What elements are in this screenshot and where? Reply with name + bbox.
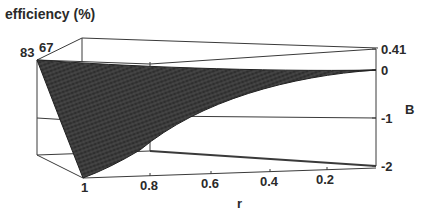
b-tick-0: 0 <box>381 64 388 77</box>
r-tick-0-6: 0.6 <box>201 177 219 190</box>
chart-title: efficiency (%) <box>5 7 95 21</box>
r-tick-0-2: 0.2 <box>316 173 334 186</box>
r-tick-0-4: 0.4 <box>260 175 278 188</box>
efficiency-surface <box>37 60 376 178</box>
b-tick-0-41: 0.41 <box>381 43 406 56</box>
b-tick-neg1: -1 <box>381 112 393 125</box>
b-axis-label: B <box>405 103 414 116</box>
z-tick-83: 83 <box>20 46 34 59</box>
z-tick-67: 67 <box>39 41 53 54</box>
r-axis-label: r <box>237 197 242 210</box>
r-tick-0-8: 0.8 <box>140 179 158 192</box>
b-tick-neg2: -2 <box>381 160 393 173</box>
r-tick-1: 1 <box>81 181 88 194</box>
